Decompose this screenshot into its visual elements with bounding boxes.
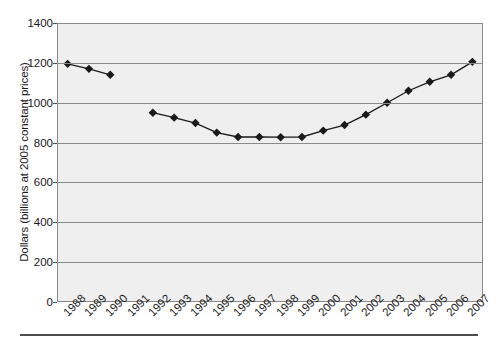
- gridline: [57, 143, 483, 144]
- y-axis-tick-mark: [53, 222, 57, 223]
- y-axis-tick-mark: [53, 143, 57, 144]
- gridline: [57, 103, 483, 104]
- y-axis-tick-label: 0: [0, 296, 53, 308]
- line-chart-figure: Dollars (billions at 2005 constant price…: [0, 0, 498, 349]
- y-axis-tick-label: 400: [0, 216, 53, 228]
- y-axis-tick-mark: [53, 262, 57, 263]
- gridline: [57, 262, 483, 263]
- gridline: [57, 63, 483, 64]
- gridline: [57, 23, 483, 24]
- gridline: [57, 182, 483, 183]
- y-axis-tick-mark: [53, 63, 57, 64]
- y-axis-tick-mark: [53, 103, 57, 104]
- plot-area: [57, 23, 483, 302]
- y-axis-tick-label: 1200: [0, 57, 53, 69]
- y-axis-tick-label: 1400: [0, 17, 53, 29]
- y-axis-tick-mark: [53, 182, 57, 183]
- y-axis-tick-mark: [53, 302, 57, 303]
- y-axis-tick-mark: [53, 23, 57, 24]
- y-axis-tick-label: 200: [0, 256, 53, 268]
- y-axis-tick-label: 1000: [0, 97, 53, 109]
- y-axis-tick-label: 800: [0, 137, 53, 149]
- bottom-horizontal-rule: [20, 334, 478, 336]
- y-axis-tick-label: 600: [0, 176, 53, 188]
- gridline: [57, 222, 483, 223]
